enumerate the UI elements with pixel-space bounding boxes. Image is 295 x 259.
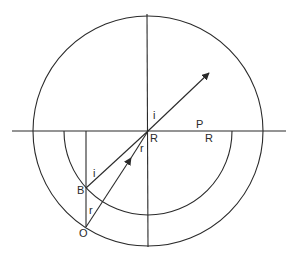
label-angle-r-center: r (140, 142, 144, 154)
label-point-B: B (77, 184, 84, 196)
refraction-diagram: i R r P R i B r O (0, 0, 295, 259)
label-angle-i-top: i (153, 109, 155, 121)
label-angle-r-O: r (89, 204, 93, 216)
label-point-P: P (196, 118, 203, 130)
label-point-O: O (79, 227, 88, 239)
label-point-R: R (150, 132, 158, 144)
label-radius-R: R (205, 132, 213, 144)
label-angle-i-B: i (93, 167, 95, 179)
